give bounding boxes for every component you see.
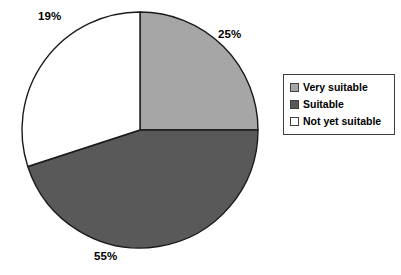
pie-label-very-suitable: 25% bbox=[218, 28, 241, 40]
legend-label-very-suitable: Very suitable bbox=[303, 82, 368, 93]
legend-item-suitable[interactable]: Suitable bbox=[290, 97, 389, 112]
chart-legend: Very suitable Suitable Not yet suitable bbox=[283, 74, 395, 135]
pie-label-not-yet-suitable: 19% bbox=[38, 10, 61, 22]
legend-swatch-very-suitable bbox=[290, 83, 299, 92]
legend-swatch-not-yet-suitable bbox=[290, 117, 299, 126]
pie-chart-figure: 19% 25% 55% Very suitable Suitable Not y… bbox=[0, 0, 401, 275]
pie-label-suitable: 55% bbox=[94, 250, 117, 262]
legend-swatch-suitable bbox=[290, 100, 299, 109]
pie-chart-plot-area bbox=[0, 0, 275, 275]
legend-label-not-yet-suitable: Not yet suitable bbox=[303, 116, 381, 127]
legend-label-suitable: Suitable bbox=[303, 99, 344, 110]
legend-item-very-suitable[interactable]: Very suitable bbox=[290, 80, 389, 95]
pie-chart-svg bbox=[0, 0, 275, 275]
legend-item-not-yet-suitable[interactable]: Not yet suitable bbox=[290, 114, 389, 129]
